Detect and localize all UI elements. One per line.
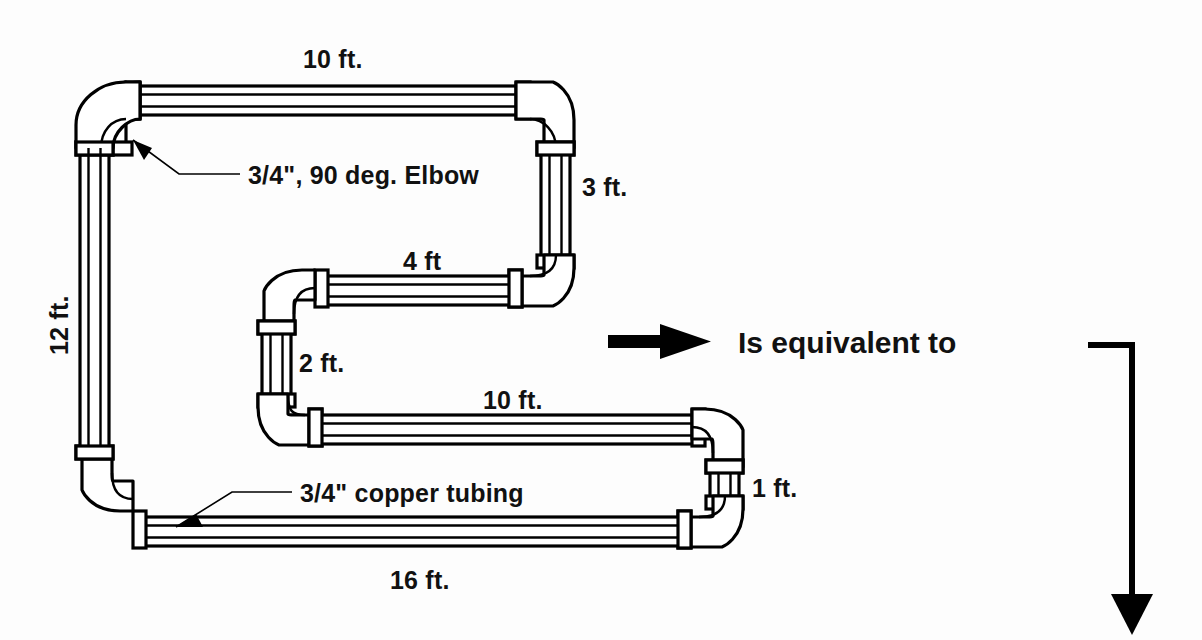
- equivalence-text: Is equivalent to: [738, 326, 956, 359]
- down-arrow-icon: [1111, 594, 1153, 635]
- pipe-segment-left-run: [76, 142, 113, 459]
- pipe-segment-mid-run: [315, 270, 522, 307]
- callout-elbow: 3/4", 90 deg. Elbow: [133, 140, 479, 189]
- label-left-run: 12 ft.: [45, 295, 73, 355]
- label-right-upper-drop: 3 ft.: [582, 173, 627, 201]
- callout-tubing-text: 3/4" copper tubing: [300, 479, 524, 507]
- label-mid-run: 4 ft: [403, 247, 442, 275]
- label-right-lower-drop: 1 ft.: [752, 474, 797, 502]
- pipe-segment-right-upper-drop: [537, 142, 574, 268]
- equivalence-arrow: Is equivalent to: [608, 324, 956, 359]
- callout-elbow-text: 3/4", 90 deg. Elbow: [248, 161, 479, 189]
- label-top-run: 10 ft.: [303, 45, 363, 73]
- right-arrow-icon: [608, 324, 711, 359]
- piping-diagram: 10 ft. 12 ft. 3 ft. 4 ft 2 ft. 10 ft. 1 …: [0, 0, 1202, 640]
- arrow-pointer-icon: [133, 140, 152, 160]
- label-bottom-run: 16 ft.: [390, 566, 450, 594]
- pipe-schematic-page: 10 ft. 12 ft. 3 ft. 4 ft 2 ft. 10 ft. 1 …: [0, 0, 1202, 640]
- pipe-segment-bottom-run: [133, 511, 691, 548]
- pipe-segment-lower-run: [309, 409, 705, 446]
- pipe-segment-top-run: [126, 82, 530, 119]
- label-mid-drop: 2 ft.: [299, 349, 344, 377]
- flow-arrow: [1088, 345, 1153, 635]
- label-lower-run: 10 ft.: [483, 386, 543, 414]
